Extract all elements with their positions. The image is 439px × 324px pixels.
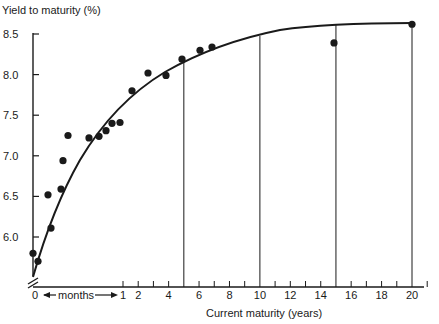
y-tick-label: 7.0 (3, 150, 18, 162)
data-point (128, 87, 135, 94)
x-tick-label: 2 (135, 289, 141, 301)
data-point (34, 258, 41, 265)
y-tick-label: 8.5 (3, 28, 18, 40)
data-point (162, 72, 169, 79)
data-points (29, 21, 415, 265)
yield-curve-chart: Yield to maturity (%) 6.06.57.07.58.08.5… (0, 0, 439, 324)
data-point (144, 69, 151, 76)
data-point (102, 127, 109, 134)
x-tick-label: 12 (284, 289, 296, 301)
data-point (47, 224, 54, 231)
x-tick-label: 6 (196, 289, 202, 301)
x-tick-label: 18 (375, 289, 387, 301)
data-point (64, 132, 71, 139)
months-annotation: months (43, 289, 118, 301)
data-point (44, 191, 51, 198)
x-tick-label: 0 (32, 289, 38, 301)
data-point (116, 119, 123, 126)
x-axis-label: Current maturity (years) (206, 307, 322, 319)
arrow-left-icon (43, 292, 50, 298)
x-tick-label: 4 (166, 289, 172, 301)
y-axis-ticks (33, 34, 39, 237)
data-point (57, 185, 64, 192)
vertical-guide-lines (184, 23, 412, 287)
x-tick-label: 1 (120, 289, 126, 301)
arrow-right-icon (111, 292, 118, 298)
data-point (196, 47, 203, 54)
axes (28, 33, 424, 288)
data-point (59, 157, 66, 164)
data-point (85, 134, 92, 141)
y-tick-label: 7.5 (3, 109, 18, 121)
y-axis-tick-labels: 6.06.57.07.58.08.5 (3, 28, 18, 243)
y-tick-label: 6.5 (3, 190, 18, 202)
data-point (108, 120, 115, 127)
fitted-yield-curve (33, 23, 412, 277)
data-point (95, 133, 102, 140)
x-tick-label: 10 (254, 289, 266, 301)
months-label: months (58, 289, 95, 301)
x-axis-ticks (123, 281, 427, 287)
data-point (330, 39, 337, 46)
data-point (408, 21, 415, 28)
x-tick-label: 8 (226, 289, 232, 301)
data-point (29, 250, 36, 257)
x-tick-label: 20 (406, 289, 418, 301)
data-point (178, 56, 185, 63)
y-tick-label: 6.0 (3, 231, 18, 243)
y-axis-label: Yield to maturity (%) (2, 4, 101, 16)
x-tick-label: 16 (345, 289, 357, 301)
data-point (208, 43, 215, 50)
y-tick-label: 8.0 (3, 69, 18, 81)
x-tick-label: 14 (315, 289, 327, 301)
